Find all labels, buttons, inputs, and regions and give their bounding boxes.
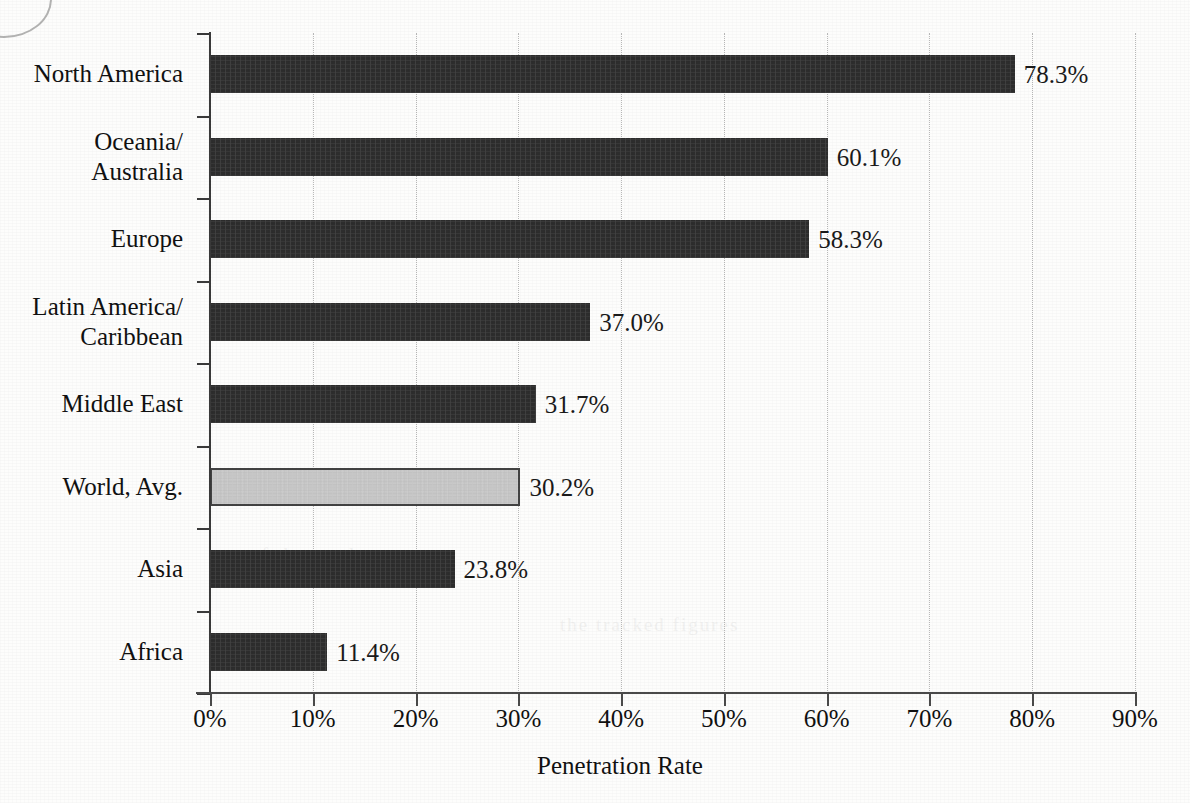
bar-value-label: 23.8% — [464, 557, 529, 582]
bar-value-label: 11.4% — [336, 639, 400, 664]
bar-row[interactable]: 31.7% — [210, 385, 1135, 423]
bar-texture — [210, 55, 1015, 93]
gridline — [416, 33, 417, 693]
bar-value-label: 30.2% — [529, 474, 594, 499]
bar-chart: 78.3%60.1%58.3%37.0%31.7%30.2%23.8%11.4%… — [0, 0, 1190, 803]
category-label: World, Avg. — [63, 472, 183, 502]
bar-row[interactable]: 30.2% — [210, 468, 1135, 506]
x-axis-title: Penetration Rate — [0, 752, 1190, 780]
category-label: North America — [34, 59, 183, 89]
category-label: Africa — [119, 637, 183, 667]
gridline — [313, 33, 314, 693]
category-label: Oceania/ Australia — [91, 127, 183, 187]
bar-row[interactable]: 78.3% — [210, 55, 1135, 93]
gridline — [724, 33, 725, 693]
bar-texture — [210, 385, 536, 423]
bar-row[interactable]: 60.1% — [210, 138, 1135, 176]
category-label: Latin America/ Caribbean — [32, 292, 183, 352]
x-axis-title-text: Penetration Rate — [537, 752, 703, 780]
category-label: Asia — [137, 554, 183, 584]
y-axis-line — [209, 32, 211, 694]
bar-value-label: 78.3% — [1024, 62, 1089, 87]
gridline — [827, 33, 828, 693]
bar[interactable] — [210, 550, 455, 588]
bar[interactable] — [210, 303, 590, 341]
bar-row[interactable]: 37.0% — [210, 303, 1135, 341]
bar-value-label: 31.7% — [545, 392, 610, 417]
bar[interactable] — [210, 468, 520, 506]
bar-texture — [210, 633, 327, 671]
bar[interactable] — [210, 220, 809, 258]
bar-value-label: 60.1% — [837, 144, 902, 169]
bar-texture — [210, 303, 590, 341]
bar[interactable] — [210, 138, 828, 176]
gridline — [518, 33, 519, 693]
category-label: Middle East — [61, 389, 183, 419]
category-label: Europe — [111, 224, 183, 254]
bar-texture — [212, 470, 518, 504]
bar[interactable] — [210, 633, 327, 671]
x-axis-line — [196, 692, 1137, 694]
bar-value-label: 58.3% — [818, 227, 883, 252]
plot-area: 78.3%60.1%58.3%37.0%31.7%30.2%23.8%11.4% — [210, 33, 1135, 693]
bar-row[interactable]: 58.3% — [210, 220, 1135, 258]
gridline — [621, 33, 622, 693]
gridline — [1135, 33, 1136, 693]
bar-row[interactable]: 23.8% — [210, 550, 1135, 588]
x-axis-tick-label: 90% — [1075, 706, 1190, 731]
scanned-page: the tracked figures of the total 78.3%60… — [0, 0, 1190, 803]
bar-texture — [210, 550, 455, 588]
bar-texture — [210, 138, 828, 176]
gridline — [929, 33, 930, 693]
bar-texture — [210, 220, 809, 258]
bar[interactable] — [210, 55, 1015, 93]
bar[interactable] — [210, 385, 536, 423]
bar-value-label: 37.0% — [599, 309, 664, 334]
gridline — [1032, 33, 1033, 693]
bar-row[interactable]: 11.4% — [210, 633, 1135, 671]
